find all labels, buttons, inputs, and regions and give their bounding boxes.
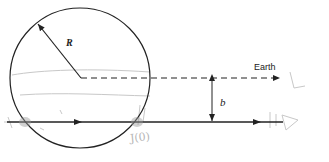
radius-arrow: [38, 24, 81, 78]
exit-point-mark: [131, 117, 143, 127]
trajectory-arrow-1: [74, 119, 82, 125]
earth-label: Earth: [254, 62, 276, 72]
trajectory-arrow-2: [253, 119, 261, 125]
radius-label: R: [66, 37, 73, 48]
impact-parameter-label: b: [220, 96, 226, 108]
entry-point-mark: [19, 117, 31, 127]
diagram-canvas: [0, 0, 329, 162]
pencil-annotation: J(0): [129, 130, 150, 145]
sphere-outline: [10, 8, 150, 148]
pencil-scribbles: [4, 70, 305, 130]
